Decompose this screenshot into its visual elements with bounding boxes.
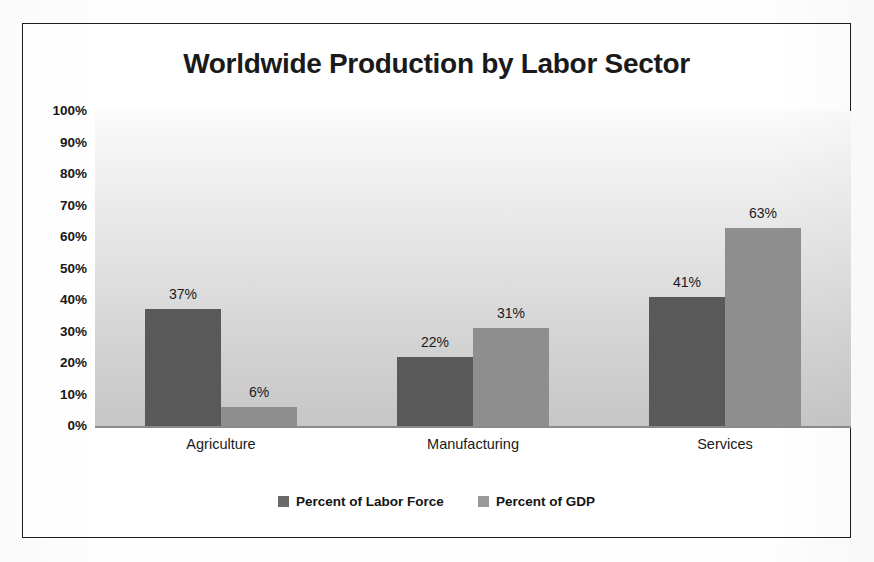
y-axis-tick-label: 70% (23, 199, 87, 213)
legend-item-series0: Percent of Labor Force (278, 494, 444, 509)
bar-value-label: 41% (673, 275, 701, 289)
y-axis-tick-label: 20% (23, 356, 87, 370)
y-axis-tick-label: 80% (23, 167, 87, 181)
chart-frame: Worldwide Production by Labor Sector 0%1… (22, 23, 851, 538)
y-axis-tick-label: 0% (23, 419, 87, 433)
bar-services-series1 (725, 228, 801, 426)
legend-swatch-icon (478, 496, 489, 507)
legend-label: Percent of Labor Force (296, 494, 444, 509)
bar-value-label: 31% (497, 306, 525, 320)
bar-manufacturing-series0 (397, 357, 473, 426)
x-axis-baseline (95, 426, 851, 428)
legend-label: Percent of GDP (496, 494, 595, 509)
y-axis-tick-label: 90% (23, 136, 87, 150)
bar-value-label: 37% (169, 287, 197, 301)
y-axis-tick-label: 10% (23, 388, 87, 402)
scanned-page: Worldwide Production by Labor Sector 0%1… (0, 0, 874, 562)
y-axis-tick-label: 60% (23, 230, 87, 244)
chart-legend: Percent of Labor ForcePercent of GDP (23, 494, 850, 509)
category-label-manufacturing: Manufacturing (427, 436, 519, 452)
bar-manufacturing-series1 (473, 328, 549, 426)
bar-agriculture-series1 (221, 407, 297, 426)
y-axis-tick-label: 30% (23, 325, 87, 339)
category-label-services: Services (697, 436, 753, 452)
bar-value-label: 22% (421, 335, 449, 349)
bar-value-label: 6% (249, 385, 269, 399)
y-axis-tick-label: 50% (23, 262, 87, 276)
y-axis-tick-label: 40% (23, 293, 87, 307)
bar-services-series0 (649, 297, 725, 426)
y-axis-tick-label: 100% (23, 104, 87, 118)
legend-swatch-icon (278, 496, 289, 507)
category-label-agriculture: Agriculture (186, 436, 255, 452)
chart-title: Worldwide Production by Labor Sector (23, 48, 850, 80)
y-axis: 0%10%20%30%40%50%60%70%80%90%100% (23, 24, 87, 539)
bar-value-label: 63% (749, 206, 777, 220)
bar-agriculture-series0 (145, 309, 221, 426)
legend-item-series1: Percent of GDP (478, 494, 595, 509)
